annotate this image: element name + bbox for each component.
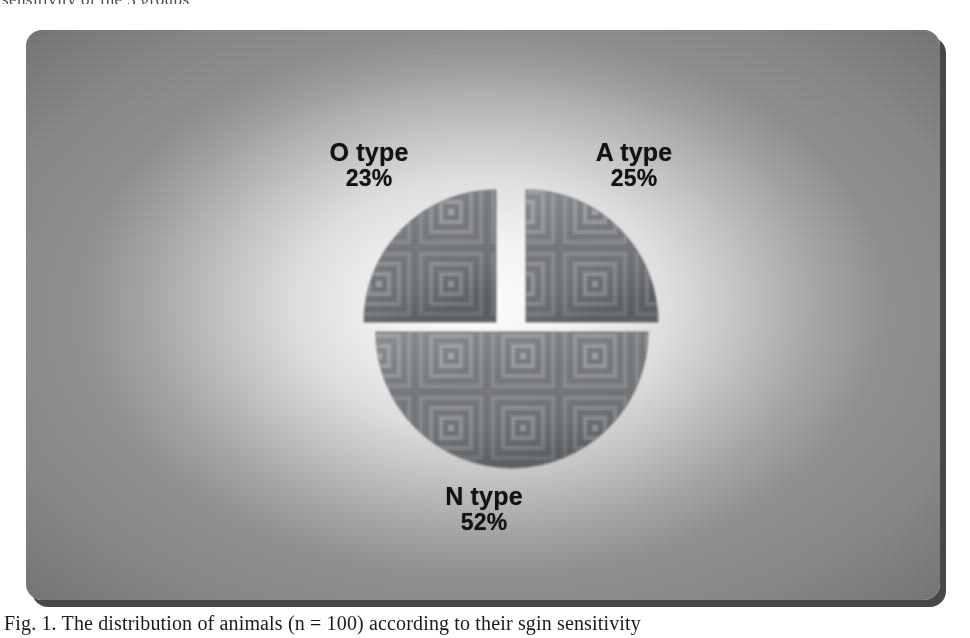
pie-label-n-type-name: N type [389,482,579,510]
pie-chart: O type 23% A type 25% N type 52% [26,30,940,600]
pie-label-a-type-value: 25% [544,166,724,192]
pie-label-o-type-value: 23% [279,166,459,192]
page-top-cut-text: sensitivity of the 3 groups [0,0,970,4]
pie-slice-o-type[interactable] [364,190,496,322]
pie-slice-n-type[interactable] [376,332,648,468]
pie-label-o-type-name: O type [279,138,459,166]
pie-label-n-type-value: 52% [389,510,579,536]
pie-slice-a-type[interactable] [526,190,658,322]
figure-plate: O type 23% A type 25% N type 52% [26,30,940,600]
pie-label-o-type: O type 23% [279,138,459,192]
figure-caption: Fig. 1. The distribution of animals (n =… [4,612,964,638]
pie-label-a-type-name: A type [544,138,724,166]
page-top-cut-text-value: sensitivity of the 3 groups [0,0,189,4]
pie-label-n-type: N type 52% [389,482,579,536]
pie-label-a-type: A type 25% [544,138,724,192]
